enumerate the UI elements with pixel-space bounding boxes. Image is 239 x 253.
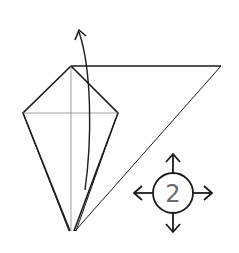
arrow-up-icon [166,154,180,173]
curved-arrow-up-icon [75,30,90,190]
step-indicator: 2 [134,154,212,232]
origami-diagram: 2 [0,0,239,253]
kite-shape [23,66,118,231]
arrow-left-icon [134,186,153,200]
arrow-right-icon [193,186,212,200]
arrow-down-icon [166,213,180,232]
flap-triangle [71,66,221,231]
step-number: 2 [165,180,180,208]
